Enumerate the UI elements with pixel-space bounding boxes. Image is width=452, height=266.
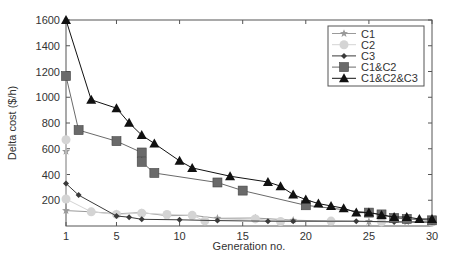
- square-marker: [112, 137, 121, 146]
- legend-label: C1&C2: [361, 61, 396, 73]
- y-tick-label: 1000: [36, 91, 60, 103]
- series-line: [66, 76, 432, 220]
- x-tick-label: 20: [300, 230, 312, 242]
- y-tick-label: 1600: [36, 14, 60, 26]
- legend-label: C1&C2&C3: [361, 72, 418, 84]
- square-marker: [137, 148, 146, 157]
- y-tick-label: 200: [42, 194, 60, 206]
- diamond-marker: [139, 216, 145, 222]
- square-marker: [137, 157, 146, 166]
- circle-marker: [162, 210, 171, 219]
- square-marker: [62, 72, 71, 81]
- triangle-marker: [149, 138, 159, 147]
- circle-marker: [188, 211, 197, 220]
- triangle-marker: [111, 103, 121, 112]
- legend-label: C2: [361, 39, 375, 51]
- x-tick-label: 10: [173, 230, 185, 242]
- y-tick-label: 800: [42, 117, 60, 129]
- circle-marker: [62, 135, 71, 144]
- diamond-marker: [177, 217, 183, 223]
- x-tick-label: 1: [63, 230, 69, 242]
- triangle-marker: [86, 95, 96, 104]
- legend-label: C3: [361, 50, 375, 62]
- triangle-marker: [288, 190, 298, 199]
- square-marker: [340, 63, 349, 72]
- square-marker: [213, 178, 222, 187]
- square-marker: [238, 186, 247, 195]
- diamond-marker: [353, 218, 359, 224]
- legend: C1C2C3C1&C2C1&C2&C3: [328, 26, 424, 86]
- legend-item: C1&C2: [332, 61, 396, 73]
- series-c1-and-c2: [62, 72, 437, 225]
- y-tick-label: 1400: [36, 40, 60, 52]
- y-tick-label: 600: [42, 143, 60, 155]
- triangle-marker: [301, 195, 311, 204]
- line-chart: 1510152025302004006008001000120014001600…: [0, 0, 452, 266]
- x-axis-label: Generation no.: [213, 240, 286, 252]
- x-tick-label: 30: [426, 230, 438, 242]
- circle-marker: [87, 207, 96, 216]
- y-tick-label: 1200: [36, 66, 60, 78]
- circle-marker: [251, 214, 260, 223]
- square-marker: [74, 126, 83, 135]
- y-axis-label: Delta cost ($/h): [6, 86, 18, 161]
- triangle-marker: [175, 156, 185, 165]
- circle-marker: [62, 194, 71, 203]
- x-tick-label: 5: [113, 230, 119, 242]
- diamond-marker: [126, 214, 132, 220]
- y-tick-label: 400: [42, 169, 60, 181]
- square-marker: [150, 168, 159, 177]
- triangle-marker: [187, 163, 197, 172]
- circle-marker: [137, 209, 146, 218]
- circle-marker: [340, 40, 349, 49]
- triangle-marker: [313, 199, 323, 208]
- triangle-marker: [276, 181, 286, 190]
- x-tick-label: 25: [363, 230, 375, 242]
- legend-label: C1: [361, 28, 375, 40]
